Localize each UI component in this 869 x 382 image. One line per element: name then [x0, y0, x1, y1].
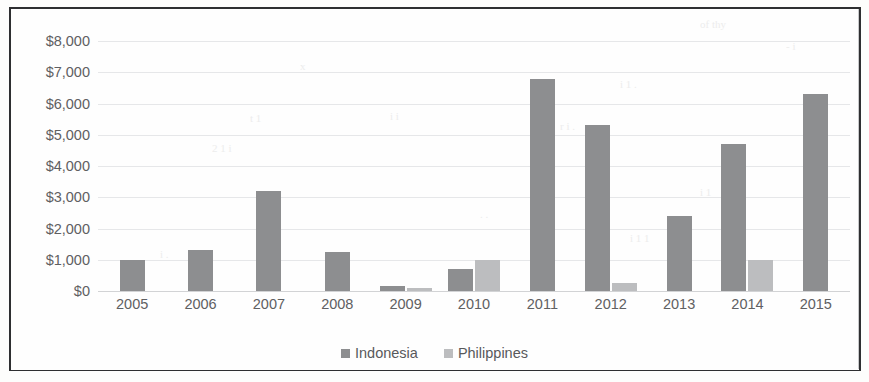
y-axis-tick-label: $6,000 [10, 96, 90, 112]
y-axis-tick-label: $0 [10, 283, 90, 299]
bar-group-2005 [98, 41, 166, 291]
x-axis-tick-label: 2012 [595, 296, 627, 312]
bar-group-2007 [235, 41, 303, 291]
legend-swatch-icon [341, 349, 350, 358]
x-axis-tick-label: 2007 [253, 296, 285, 312]
legend-label: Philippines [458, 345, 528, 361]
gridline-0 [98, 291, 850, 292]
bar-group-2012 [577, 41, 645, 291]
bar-group-2010 [440, 41, 508, 291]
x-axis-tick-label: 2014 [731, 296, 763, 312]
y-axis-tick-label: $4,000 [10, 158, 90, 174]
legend-item-philippines[interactable]: Philippines [444, 345, 528, 361]
bar-indonesia-2015 [803, 94, 828, 291]
x-axis-tick-label: 2013 [663, 296, 695, 312]
bar-indonesia-2009 [380, 286, 405, 291]
bar-indonesia-2010 [448, 269, 473, 291]
y-axis-tick-label: $7,000 [10, 64, 90, 80]
y-axis-tick-label: $8,000 [10, 33, 90, 49]
bar-philippines-2012 [612, 283, 637, 291]
bar-chart-figure: of thy- ixi 1 .t 1i ir i .2 1 iii 1. .i … [0, 0, 869, 382]
bar-indonesia-2012 [585, 125, 610, 291]
bar-indonesia-2006 [188, 250, 213, 291]
bar-group-2008 [303, 41, 371, 291]
bar-philippines-2010 [475, 260, 500, 291]
plot-area [98, 41, 850, 291]
bar-group-2006 [166, 41, 234, 291]
x-axis-tick-label: 2005 [116, 296, 148, 312]
bar-indonesia-2007 [256, 191, 281, 291]
bar-group-2015 [782, 41, 850, 291]
x-axis-tick-label: 2009 [389, 296, 421, 312]
bar-indonesia-2013 [667, 216, 692, 291]
legend-swatch-icon [444, 349, 453, 358]
bar-indonesia-2008 [325, 252, 350, 291]
x-axis-tick-label: 2015 [800, 296, 832, 312]
legend-item-indonesia[interactable]: Indonesia [341, 345, 418, 361]
bar-indonesia-2011 [530, 79, 555, 292]
bar-indonesia-2014 [721, 144, 746, 291]
y-axis-tick-label: $2,000 [10, 221, 90, 237]
x-axis-tick-label: 2006 [184, 296, 216, 312]
x-axis-tick-label: 2010 [458, 296, 490, 312]
bar-philippines-2009 [407, 288, 432, 291]
y-axis-tick-label: $1,000 [10, 252, 90, 268]
bar-group-2009 [371, 41, 439, 291]
chart-legend: IndonesiaPhilippines [0, 345, 869, 361]
y-axis-tick-label: $3,000 [10, 189, 90, 205]
x-axis-tick-label: 2011 [527, 296, 558, 312]
y-axis-tick-label: $5,000 [10, 127, 90, 143]
bar-group-2013 [645, 41, 713, 291]
bar-philippines-2014 [748, 260, 773, 291]
bar-indonesia-2005 [120, 260, 145, 291]
x-axis-tick-label: 2008 [321, 296, 353, 312]
y-axis-labels: $0$1,000$2,000$3,000$4,000$5,000$6,000$7… [8, 41, 90, 291]
bar-group-2014 [713, 41, 781, 291]
bar-group-2011 [508, 41, 576, 291]
x-axis-labels: 2005200620072008200920102011201220132014… [98, 296, 850, 324]
legend-label: Indonesia [355, 345, 418, 361]
